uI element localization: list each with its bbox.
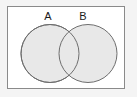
set-a-label: A bbox=[44, 10, 52, 22]
venn-diagram-figure: A B bbox=[0, 0, 137, 97]
set-b-label: B bbox=[79, 10, 86, 22]
venn-diagram-canvas: A B bbox=[0, 0, 137, 97]
set-b-circle bbox=[59, 25, 117, 83]
